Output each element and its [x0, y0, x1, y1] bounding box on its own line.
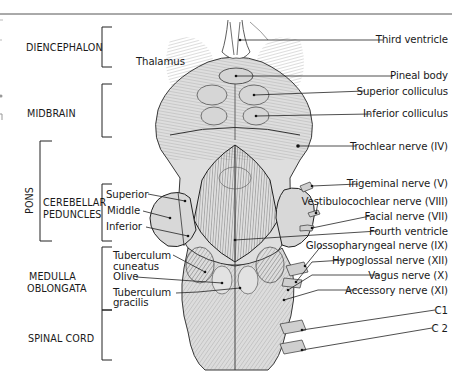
label-fourth-ventricle: Fourth ventricle: [369, 226, 448, 237]
label-olive: Olive: [113, 271, 138, 282]
region-label-midbrain: MIDBRAIN: [27, 108, 76, 119]
brainstem-illustration: [0, 0, 470, 381]
region-brackets: [40, 27, 112, 360]
region-label-pons: PONS: [24, 187, 35, 214]
label-c2: C 2: [431, 323, 448, 334]
label-superior-colliculus: Superior colliculus: [357, 86, 448, 97]
label-pineal-body: Pineal body: [390, 70, 448, 81]
label-accessory-nerve: Accessory nerve (XI): [345, 285, 448, 296]
label-tuberculum-cuneatus-1: Tuberculum: [113, 250, 171, 261]
brainstem-drawing: [150, 20, 320, 370]
label-vestibulocochlear-nerve: Vestibulocochlear nerve (VIII): [301, 196, 448, 207]
label-vagus-nerve: Vagus nerve (X): [368, 270, 448, 281]
region-label-cerebellar-peduncles-2: PEDUNCLES: [43, 209, 102, 220]
label-superior-peduncle: Superior: [106, 189, 148, 200]
label-hypoglossal-nerve: Hypoglossal nerve (XII): [332, 255, 448, 266]
label-c1: C1: [435, 305, 448, 316]
region-label-cerebellar-peduncles-1: CEREBELLAR: [43, 197, 106, 208]
region-label-diencephalon: DIENCEPHALON: [26, 42, 103, 53]
label-third-ventricle: Third ventricle: [376, 34, 448, 45]
region-label-medulla-2: OBLONGATA: [27, 283, 87, 294]
label-trochlear-nerve: Trochlear nerve (IV): [350, 141, 448, 152]
label-thalamus: Thalamus: [136, 56, 185, 67]
brainstem-diagram: DIENCEPHALON MIDBRAIN PONS CEREBELLAR PE…: [0, 0, 470, 381]
label-facial-nerve: Facial nerve (VII): [365, 211, 449, 222]
label-inferior-colliculus: Inferior colliculus: [363, 108, 448, 119]
label-inferior-peduncle: Inferior: [106, 221, 142, 232]
label-trigeminal-nerve: Trigeminal nerve (V): [347, 178, 448, 189]
label-glossopharyngeal-nerve: Glossopharyngeal nerve (IX): [306, 240, 448, 251]
label-middle-peduncle: Middle: [107, 205, 140, 216]
region-label-spinal-cord: SPINAL CORD: [28, 333, 94, 344]
label-tuberculum-gracilis-2: gracilis: [113, 297, 149, 308]
region-label-medulla-1: MEDULLA: [29, 271, 76, 282]
